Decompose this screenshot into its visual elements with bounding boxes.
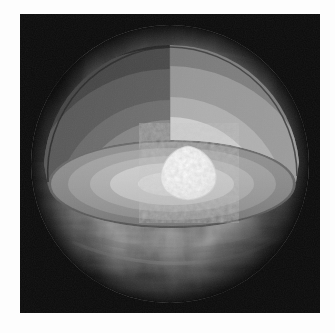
earth-cutaway-image-panel — [20, 14, 320, 313]
film-grain — [20, 14, 320, 313]
earth-cutaway-illustration — [20, 14, 320, 313]
figure-root: Crust Upper mantle Lower mantle Transiti… — [0, 0, 335, 333]
